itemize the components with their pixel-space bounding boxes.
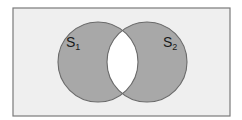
venn-diagram: S1 S2	[0, 0, 242, 120]
venn-diagram-svg: S1 S2	[0, 0, 242, 120]
